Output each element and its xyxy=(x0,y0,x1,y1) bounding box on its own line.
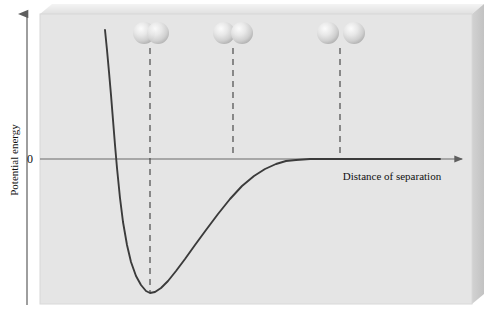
potential-energy-diagram: 0 Distance of separation Potential energ… xyxy=(0,0,487,316)
atom-sphere xyxy=(317,22,339,44)
x-axis-label: Distance of separation xyxy=(343,170,442,182)
atom-sphere xyxy=(147,22,169,44)
y-axis-label: Potential energy xyxy=(8,124,20,196)
molecule-pair-bonded xyxy=(133,22,169,44)
atom-sphere xyxy=(343,22,365,44)
atom-sphere xyxy=(231,22,253,44)
zero-tick-label: 0 xyxy=(27,152,33,166)
panel-top-bevel xyxy=(40,4,484,14)
panel-right-bevel xyxy=(472,4,484,304)
figure-canvas: 0 Distance of separation Potential energ… xyxy=(0,0,487,316)
